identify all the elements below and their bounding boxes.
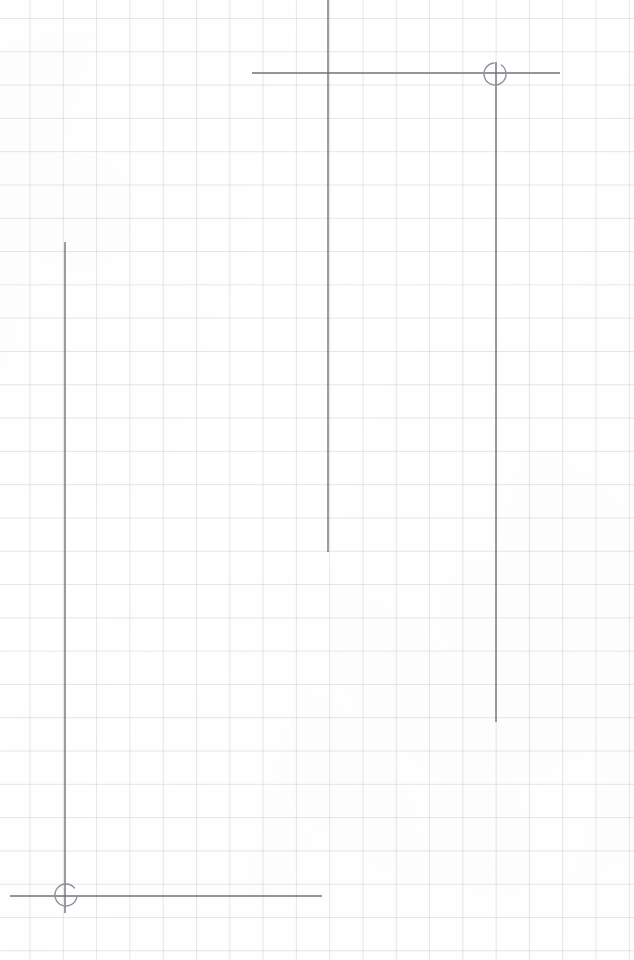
stroke-group (10, 0, 560, 913)
bottom-left-circle-marker (55, 884, 77, 906)
top-right-circle-marker (484, 63, 506, 85)
graph-paper-sheet: Graph Paper Technical Sketch (0, 0, 634, 960)
sketch-svg (0, 0, 634, 960)
ink-drawing-layer (0, 0, 634, 960)
marker-group (55, 63, 506, 906)
